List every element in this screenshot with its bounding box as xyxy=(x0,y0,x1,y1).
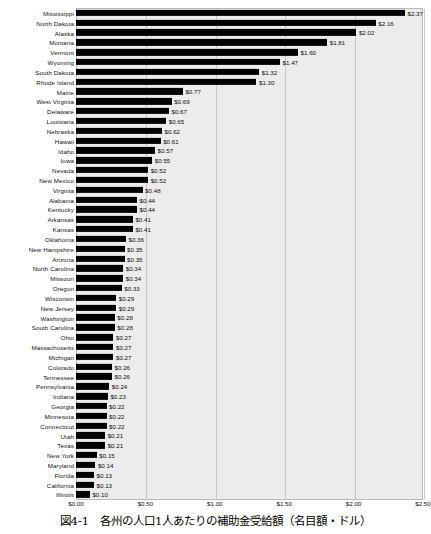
bar-value-label: $1.32 xyxy=(259,68,277,75)
bar-value-label: $1.30 xyxy=(256,78,274,85)
bar xyxy=(76,59,280,65)
bar-row: Arkansas$0.41 xyxy=(0,214,431,224)
x-tick-label: $0.00 xyxy=(68,500,83,507)
bar-row: Hawaii$0.61 xyxy=(0,136,431,146)
bar-row: Arizona$0.35 xyxy=(0,254,431,264)
bar-track: $0.24 xyxy=(76,381,423,391)
bar xyxy=(76,491,90,497)
bar-row: Oregon$0.33 xyxy=(0,283,431,293)
bar-value-label: $0.77 xyxy=(183,88,201,95)
bar-value-label: $0.10 xyxy=(90,491,108,498)
bar xyxy=(76,177,148,183)
bar-track: $0.21 xyxy=(76,431,423,441)
bar-row: New Jersey$0.29 xyxy=(0,303,431,313)
bar-row: Kansas$0.41 xyxy=(0,224,431,234)
category-label: West Virginia xyxy=(36,98,74,105)
bar-track: $0.26 xyxy=(76,372,423,382)
bar xyxy=(76,393,108,399)
bar-value-label: $2.16 xyxy=(376,19,394,26)
bar-track: $0.27 xyxy=(76,342,423,352)
category-label: Alaska xyxy=(55,29,74,36)
bar-track: $1.32 xyxy=(76,67,423,77)
bar-track: $0.28 xyxy=(76,322,423,332)
bar-row: Nevada$0.52 xyxy=(0,165,431,175)
bar-row: Florida$0.13 xyxy=(0,470,431,480)
bar-track: $1.60 xyxy=(76,47,423,57)
bar-value-label: $2.37 xyxy=(405,9,423,16)
x-tick-label: $1.00 xyxy=(207,500,222,507)
bar-row: New Mexico$0.52 xyxy=(0,175,431,185)
bar-row: Pennsylvania$0.24 xyxy=(0,381,431,391)
x-axis: $0.00$0.50$1.00$1.50$2.00$2.50 xyxy=(76,500,423,512)
category-label: Wyoming xyxy=(48,59,74,66)
category-label: New Hampshire xyxy=(29,245,74,252)
bar xyxy=(76,226,133,232)
bar-value-label: $0.36 xyxy=(126,235,144,242)
bar-value-label: $0.35 xyxy=(125,245,143,252)
bar xyxy=(76,285,122,291)
bar xyxy=(76,79,256,85)
bar-row: Delaware$0.67 xyxy=(0,106,431,116)
bar-row: North Carolina$0.34 xyxy=(0,264,431,274)
bar-rows: Mississippi$2.37North Dakota$2.16Alaska$… xyxy=(0,8,431,500)
bar-row: Mississippi$2.37 xyxy=(0,8,431,18)
bar xyxy=(76,344,113,350)
category-label: Washington xyxy=(41,314,74,321)
bar-row: Oklahoma$0.36 xyxy=(0,234,431,244)
bar-value-label: $0.21 xyxy=(105,442,123,449)
x-tick-label: $0.50 xyxy=(138,500,153,507)
category-label: Hawaii xyxy=(55,137,74,144)
category-label: North Dakota xyxy=(36,19,74,26)
category-label: Idaho xyxy=(58,147,74,154)
bar-value-label: $0.34 xyxy=(123,275,141,282)
bar xyxy=(76,69,259,75)
category-label: New Jersey xyxy=(41,304,74,311)
bar-row: Alabama$0.44 xyxy=(0,195,431,205)
bar-track: $0.52 xyxy=(76,165,423,175)
bar-row: Michigan$0.27 xyxy=(0,352,431,362)
bar-track: $0.62 xyxy=(76,126,423,136)
bar-track: $0.65 xyxy=(76,116,423,126)
bar-track: $0.22 xyxy=(76,401,423,411)
bar-value-label: $0.41 xyxy=(133,216,151,223)
bar-track: $0.33 xyxy=(76,283,423,293)
bar-row: Massachusetts$0.27 xyxy=(0,342,431,352)
bar xyxy=(76,88,183,94)
bar-row: North Dakota$2.16 xyxy=(0,18,431,28)
bar xyxy=(76,167,148,173)
bar xyxy=(76,128,162,134)
bar xyxy=(76,246,125,252)
bar xyxy=(76,364,112,370)
category-label: Oregon xyxy=(53,285,74,292)
bar xyxy=(76,49,298,55)
category-label: Pennsylvania xyxy=(36,383,74,390)
bar-value-label: $0.28 xyxy=(115,324,133,331)
bar-value-label: $1.47 xyxy=(280,59,298,66)
bar-value-label: $0.13 xyxy=(94,481,112,488)
category-label: Missouri xyxy=(50,275,74,282)
bar xyxy=(76,481,94,487)
bar-track: $0.13 xyxy=(76,470,423,480)
bar-track: $2.37 xyxy=(76,8,423,18)
bar xyxy=(76,422,107,428)
category-label: Connecticut xyxy=(40,422,74,429)
bar xyxy=(76,334,113,340)
category-label: Virginia xyxy=(53,186,74,193)
bar-track: $0.55 xyxy=(76,155,423,165)
bar-value-label: $0.61 xyxy=(161,137,179,144)
bar-row: Wisconsin$0.29 xyxy=(0,293,431,303)
category-label: New Mexico xyxy=(39,176,74,183)
category-label: North Carolina xyxy=(33,265,74,272)
bar-track: $0.44 xyxy=(76,205,423,215)
category-label: Nevada xyxy=(52,167,74,174)
bar-row: Connecticut$0.22 xyxy=(0,421,431,431)
bar-value-label: $0.23 xyxy=(108,393,126,400)
bar-track: $1.30 xyxy=(76,77,423,87)
bar-track: $0.77 xyxy=(76,87,423,97)
bar-track: $1.81 xyxy=(76,37,423,47)
bar-row: California$0.13 xyxy=(0,480,431,490)
bar-row: New York$0.15 xyxy=(0,450,431,460)
bar xyxy=(76,275,123,281)
bar-track: $1.47 xyxy=(76,57,423,67)
bar-value-label: $0.65 xyxy=(166,118,184,125)
